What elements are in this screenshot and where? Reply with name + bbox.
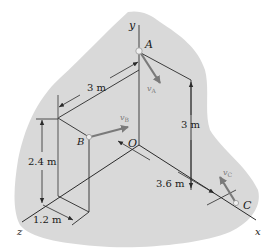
kinematics-figure: y x z O A B C vA vB vC 3 m 3 m 2.4 m 1.2… (0, 0, 276, 249)
point-A (136, 48, 142, 54)
origin-label: O (128, 137, 137, 150)
point-C (233, 200, 238, 205)
dim-right-3m: 3 m (181, 119, 201, 130)
x-axis-label: x (255, 226, 261, 237)
dim-left-2.4m: 2.4 m (28, 156, 57, 167)
y-axis-label: y (128, 19, 136, 32)
point-C-label: C (243, 199, 252, 212)
dim-x-3.6m: 3.6 m (156, 178, 185, 189)
point-B-label: B (76, 136, 84, 147)
point-B (86, 134, 91, 139)
z-axis-label: z (16, 226, 23, 237)
point-A-label: A (144, 38, 153, 51)
dim-top-3m: 3 m (87, 82, 107, 93)
dim-z-1.2m: 1.2 m (33, 214, 62, 225)
gray-region (15, 11, 259, 247)
